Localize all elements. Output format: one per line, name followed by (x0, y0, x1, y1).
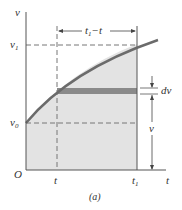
t1-tick-label: t1 (132, 174, 139, 188)
arrowhead-down-icon (150, 165, 154, 170)
arrowhead-left-icon (58, 29, 63, 33)
v0-label: v0 (10, 116, 19, 130)
interval-label: t1−t (85, 24, 103, 38)
figure-caption: (a) (89, 191, 101, 203)
origin-label: O (14, 168, 22, 180)
kinematics-diagram: v v1 v0 O t t1 t t1−t dv v (a) (0, 0, 182, 210)
x-axis-label: t (166, 174, 170, 186)
t-tick-label: t (54, 174, 58, 186)
dv-band (57, 88, 137, 94)
y-axis-label: v (15, 6, 20, 18)
arrowhead-down-icon (150, 83, 154, 88)
shaded-area (26, 44, 137, 170)
arrowhead-right-icon (131, 29, 136, 33)
arrowhead-up-icon (150, 95, 154, 100)
v-height-label: v (149, 122, 154, 134)
dv-label: dv (161, 84, 172, 96)
v1-label: v1 (10, 38, 18, 52)
